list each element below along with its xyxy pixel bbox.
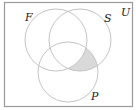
set-label-s: S — [104, 12, 112, 25]
set-label-p: P — [90, 90, 99, 103]
venn-diagram: F S P U — [0, 0, 136, 110]
universe-label: U — [121, 6, 131, 19]
set-label-f: F — [24, 11, 33, 24]
